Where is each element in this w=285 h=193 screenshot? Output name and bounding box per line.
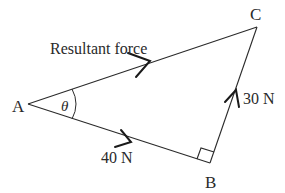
vertex-label-b: B bbox=[205, 173, 216, 192]
force-30n-label: 30 N bbox=[243, 90, 275, 107]
force-triangle-diagram: A B C θ Resultant force 40 N 30 N bbox=[0, 0, 285, 193]
vertex-label-c: C bbox=[250, 5, 261, 24]
vertex-label-a: A bbox=[12, 97, 25, 116]
edge-resultant-force bbox=[28, 27, 257, 104]
angle-label-theta: θ bbox=[61, 98, 69, 114]
angle-theta-arc bbox=[72, 89, 76, 119]
force-40n-label: 40 N bbox=[101, 149, 133, 166]
resultant-force-label: Resultant force bbox=[50, 40, 147, 57]
